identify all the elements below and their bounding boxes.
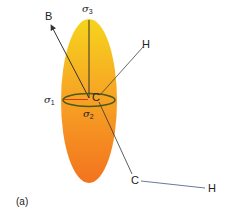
c-center-label: C [92,92,100,103]
c-lower-label: C [131,175,139,186]
h-lower-label: H [208,183,216,194]
panel-label: (a) [16,197,28,207]
diagram-graphic [0,0,228,218]
sigma1-label: σ1 [44,95,55,106]
b-field-label: B [45,11,52,22]
shielding-tensor-diagram: σ3 B H σ1 C σ2 C H (a) [0,0,228,218]
ch-bond-lower [141,181,205,188]
h-upper-label: H [142,39,150,50]
sigma3-label: σ3 [82,4,93,15]
sigma2-label: σ2 [83,109,94,120]
